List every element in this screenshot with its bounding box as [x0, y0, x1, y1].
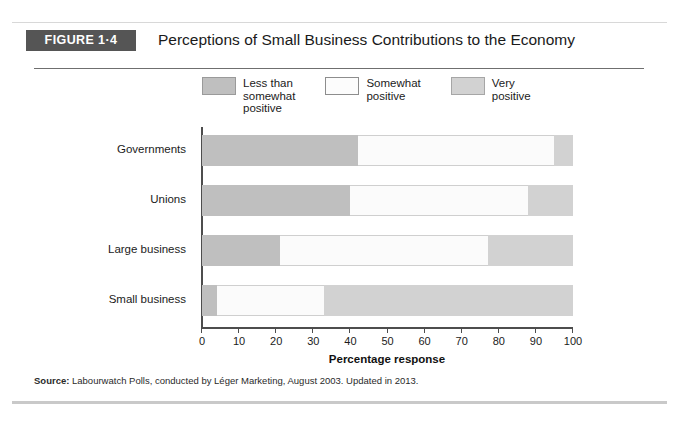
bar-row: Governments — [34, 135, 644, 166]
legend-swatch-icon — [451, 77, 485, 95]
bar-segment[interactable] — [217, 285, 325, 316]
bar-row: Unions — [34, 185, 644, 216]
x-tick — [275, 327, 276, 333]
legend-item-0[interactable]: Less than somewhat positive — [202, 77, 295, 115]
legend-label: Less than somewhat positive — [243, 77, 295, 115]
category-label-small-business: Small business — [109, 293, 186, 305]
bar-segment[interactable] — [202, 285, 217, 316]
category-label-large-business: Large business — [108, 243, 186, 255]
x-axis-label: Percentage response — [201, 353, 573, 365]
chart-plot-area: GovernmentsUnionsLarge businessSmall bus… — [34, 127, 644, 357]
x-tick — [572, 327, 573, 333]
bar-segment[interactable] — [202, 135, 358, 166]
x-tick-label: 40 — [344, 335, 356, 347]
source-text: Labourwatch Polls, conducted by Léger Ma… — [69, 375, 418, 386]
figure-container: FIGURE 1·4 Perceptions of Small Business… — [12, 22, 667, 404]
legend-label: Very positive — [492, 77, 531, 102]
category-label-unions: Unions — [150, 193, 186, 205]
x-tick-label: 10 — [233, 335, 245, 347]
stacked-bar[interactable] — [202, 185, 573, 216]
bar-segment[interactable] — [202, 185, 350, 216]
x-tick-label: 50 — [381, 335, 393, 347]
stacked-bar[interactable] — [202, 135, 573, 166]
x-tick-label: 90 — [530, 335, 542, 347]
x-tick-label: 30 — [307, 335, 319, 347]
stacked-bar[interactable] — [202, 235, 573, 266]
x-tick — [349, 327, 350, 333]
x-tick-label: 70 — [456, 335, 468, 347]
bar-segment[interactable] — [350, 185, 528, 216]
bar-segment[interactable] — [324, 285, 573, 316]
chart-legend: Less than somewhat positiveSomewhat posi… — [202, 77, 531, 115]
figure-header: FIGURE 1·4 Perceptions of Small Business… — [12, 23, 667, 57]
legend-swatch-icon — [202, 77, 236, 95]
category-label-governments: Governments — [117, 143, 186, 155]
legend-item-1[interactable]: Somewhat positive — [325, 77, 420, 115]
bar-segment[interactable] — [358, 135, 555, 166]
x-tick — [535, 327, 536, 333]
x-tick — [312, 327, 313, 333]
legend-item-2[interactable]: Very positive — [451, 77, 531, 115]
figure-title: Perceptions of Small Business Contributi… — [158, 31, 575, 49]
source-label: Source: — [34, 375, 69, 386]
header-divider — [34, 68, 644, 69]
x-tick-label: 80 — [493, 335, 505, 347]
source-note: Source: Labourwatch Polls, conducted by … — [34, 375, 418, 386]
x-tick — [424, 327, 425, 333]
bar-segment[interactable] — [488, 235, 573, 266]
bar-segment[interactable] — [202, 235, 280, 266]
figure-number-badge: FIGURE 1·4 — [26, 30, 136, 51]
bar-row: Large business — [34, 235, 644, 266]
x-tick — [201, 327, 202, 333]
bar-segment[interactable] — [280, 235, 488, 266]
stacked-bar[interactable] — [202, 285, 573, 316]
bar-segment[interactable] — [528, 185, 573, 216]
x-tick-label: 0 — [199, 335, 205, 347]
legend-label: Somewhat positive — [366, 77, 420, 102]
bar-segment[interactable] — [554, 135, 573, 166]
x-tick-label: 20 — [270, 335, 282, 347]
x-tick — [387, 327, 388, 333]
legend-swatch-icon — [325, 77, 359, 95]
x-tick-label: 100 — [564, 335, 582, 347]
x-tick — [238, 327, 239, 333]
x-tick — [461, 327, 462, 333]
bar-row: Small business — [34, 285, 644, 316]
x-tick — [498, 327, 499, 333]
x-tick-label: 60 — [418, 335, 430, 347]
